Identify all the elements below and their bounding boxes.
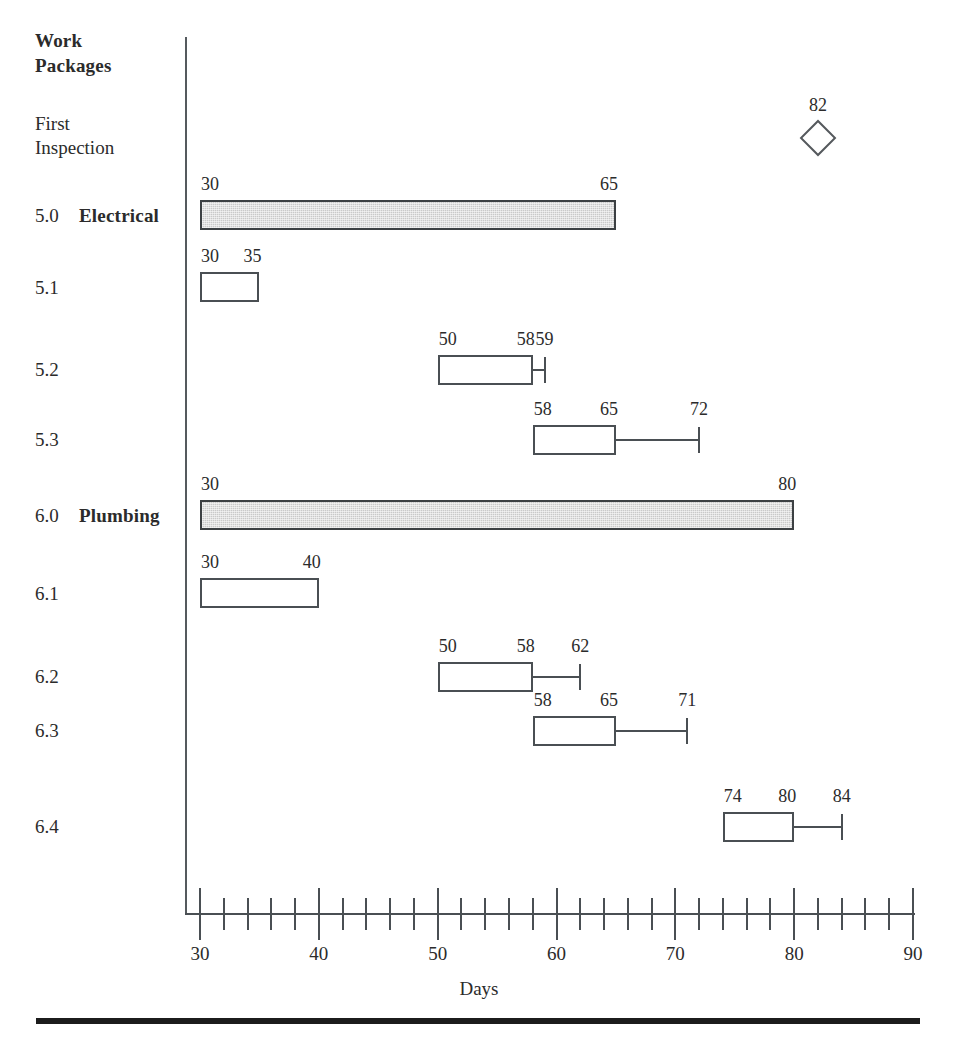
float-whisker-line (533, 676, 581, 678)
value-label: 30 (201, 175, 219, 193)
task-bar[interactable] (200, 272, 259, 302)
value-label: 40 (303, 553, 321, 571)
float-whisker-cap (579, 664, 581, 690)
value-label: 58 (517, 637, 535, 655)
float-whisker-line (794, 826, 842, 828)
task-bar[interactable] (723, 812, 794, 842)
x-tick-label: 50 (408, 944, 468, 964)
float-whisker-cap (698, 427, 700, 453)
x-tick-minor (365, 898, 367, 930)
float-whisker-cap (686, 718, 688, 744)
x-tick-major (437, 888, 439, 940)
value-label: 58 (517, 330, 535, 348)
x-tick-minor (651, 898, 653, 930)
x-tick-label: 90 (883, 944, 943, 964)
value-label: 50 (439, 330, 457, 348)
value-label: 62 (571, 637, 589, 655)
value-label: 82 (809, 96, 827, 114)
value-label: 65 (600, 175, 618, 193)
gantt-chart: Work Packages FirstInspection5.0Electric… (0, 0, 958, 1046)
x-tick-label: 70 (645, 944, 705, 964)
value-label: 80 (778, 787, 796, 805)
value-label: 74 (724, 787, 742, 805)
x-axis-title: Days (0, 978, 958, 1000)
x-tick-minor (864, 898, 866, 930)
summary-bar[interactable] (200, 500, 794, 530)
x-tick-minor (769, 898, 771, 930)
x-tick-minor (532, 898, 534, 930)
x-tick-major (556, 888, 558, 940)
value-label: 65 (600, 400, 618, 418)
value-label: 30 (201, 553, 219, 571)
task-bar[interactable] (438, 662, 533, 692)
task-bar[interactable] (533, 716, 616, 746)
x-tick-major (912, 888, 914, 940)
value-label: 50 (439, 637, 457, 655)
x-tick-minor (460, 898, 462, 930)
x-tick-minor (603, 898, 605, 930)
float-whisker-line (616, 439, 699, 441)
task-bar[interactable] (200, 578, 319, 608)
bottom-rule (36, 1018, 920, 1024)
x-tick-minor (698, 898, 700, 930)
value-label: 59 (536, 330, 554, 348)
x-tick-major (793, 888, 795, 940)
x-tick-minor (746, 898, 748, 930)
x-tick-minor (888, 898, 890, 930)
x-tick-minor (627, 898, 629, 930)
x-tick-minor (841, 898, 843, 930)
value-label: 71 (678, 691, 696, 709)
value-label: 58 (534, 400, 552, 418)
value-label: 30 (201, 475, 219, 493)
x-tick-minor (579, 898, 581, 930)
value-label: 35 (243, 247, 261, 265)
x-tick-minor (270, 898, 272, 930)
x-tick-minor (722, 898, 724, 930)
summary-bar[interactable] (200, 200, 616, 230)
plot-area: 8230653035505859586572308030405058625865… (0, 0, 958, 1046)
value-label: 72 (690, 400, 708, 418)
task-bar[interactable] (533, 425, 616, 455)
x-tick-minor (223, 898, 225, 930)
x-tick-label: 60 (527, 944, 587, 964)
value-label: 58 (534, 691, 552, 709)
x-tick-label: 40 (289, 944, 349, 964)
x-tick-minor (389, 898, 391, 930)
x-tick-label: 30 (170, 944, 230, 964)
x-tick-minor (247, 898, 249, 930)
value-label: 65 (600, 691, 618, 709)
x-tick-minor (817, 898, 819, 930)
float-whisker-line (616, 730, 687, 732)
x-tick-major (318, 888, 320, 940)
x-tick-minor (508, 898, 510, 930)
value-label: 80 (778, 475, 796, 493)
value-label: 84 (833, 787, 851, 805)
x-tick-minor (342, 898, 344, 930)
vertical-axis (185, 37, 187, 915)
x-tick-minor (413, 898, 415, 930)
task-bar[interactable] (438, 355, 533, 385)
x-tick-major (674, 888, 676, 940)
float-whisker-cap (544, 357, 546, 383)
x-tick-label: 80 (764, 944, 824, 964)
float-whisker-cap (841, 814, 843, 840)
milestone-diamond[interactable] (800, 120, 837, 157)
x-tick-minor (484, 898, 486, 930)
x-tick-major (199, 888, 201, 940)
x-tick-minor (294, 898, 296, 930)
value-label: 30 (201, 247, 219, 265)
